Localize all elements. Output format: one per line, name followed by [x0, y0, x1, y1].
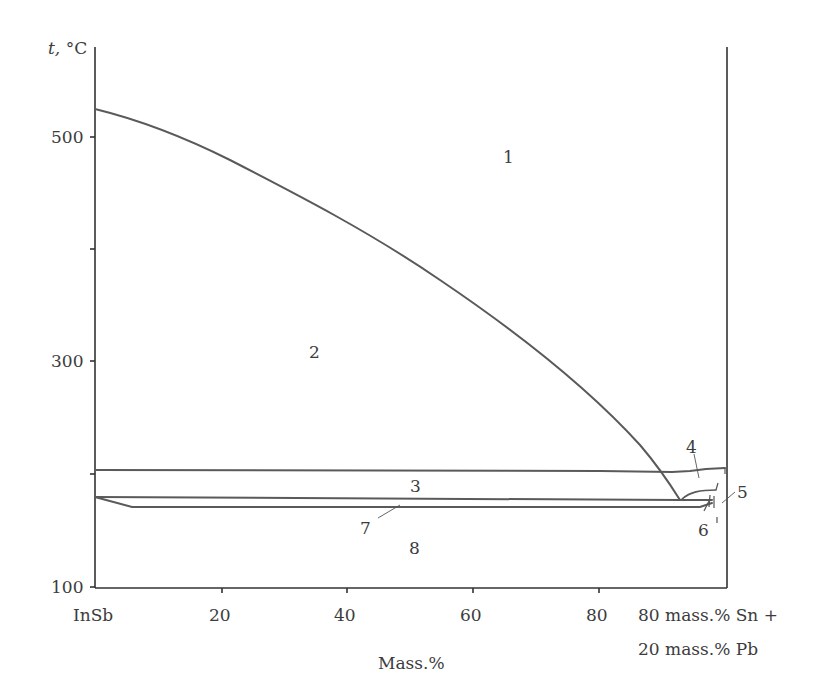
region-label-7: 7: [360, 520, 371, 537]
region-label-3: 3: [410, 478, 421, 495]
xtick-label-60: 60: [460, 607, 482, 624]
region-label-4: 4: [686, 439, 697, 456]
region-label-8: 8: [409, 540, 420, 557]
x-right-label-line2: 20 mass.% Pb: [638, 641, 758, 658]
phase-diagram: [0, 0, 815, 699]
ytick-label-500: 500: [51, 129, 83, 146]
xtick-label-insb: InSb: [73, 607, 113, 624]
region-label-1: 1: [503, 149, 514, 166]
region-4-boundary: [682, 490, 716, 499]
region-label-2: 2: [309, 344, 320, 361]
eutectic-line: [95, 497, 712, 500]
phase-boundaries: [95, 109, 725, 507]
y-axis-var: t,: [48, 38, 60, 58]
ytick-label-300: 300: [51, 353, 83, 370]
eutectic-details: [378, 454, 735, 523]
xtick-label-20: 20: [209, 607, 231, 624]
pointer-4: [694, 454, 699, 478]
upper-horizontal-line: [95, 468, 725, 472]
pointer-5: [722, 492, 735, 503]
y-axis-unit: °C: [60, 38, 87, 58]
axes: [90, 47, 727, 593]
x-axis-label: Mass.%: [378, 655, 445, 672]
xtick-label-80: 80: [586, 607, 608, 624]
region-label-6: 6: [698, 522, 709, 539]
liquidus-curve: [95, 109, 680, 500]
ytick-label-100: 100: [51, 579, 83, 596]
y-axis-label: t, °C: [48, 40, 87, 57]
x-right-label-line1: 80 mass.% Sn +: [638, 607, 778, 624]
region-label-5: 5: [737, 484, 748, 501]
xtick-label-40: 40: [334, 607, 356, 624]
dash-upper: [716, 483, 718, 490]
